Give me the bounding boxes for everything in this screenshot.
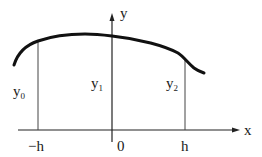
tick-label-h: h xyxy=(181,138,189,154)
x-axis-label: x xyxy=(244,122,252,138)
tick-label-minus-h: −h xyxy=(28,138,44,154)
ordinate-label-y2: y2 xyxy=(166,75,178,93)
x-axis-arrow-icon xyxy=(232,128,240,133)
y-axis xyxy=(110,13,115,142)
function-curve xyxy=(14,34,204,73)
y-axis-label: y xyxy=(120,5,128,21)
function-diagram: y x y0 y1 y2 −h 0 h xyxy=(0,0,262,157)
y-axis-arrow-icon xyxy=(110,13,115,21)
ordinate-label-y1: y1 xyxy=(91,75,103,93)
tick-label-zero: 0 xyxy=(117,138,125,154)
x-axis xyxy=(18,128,240,133)
ordinate-label-y0: y0 xyxy=(13,83,26,101)
